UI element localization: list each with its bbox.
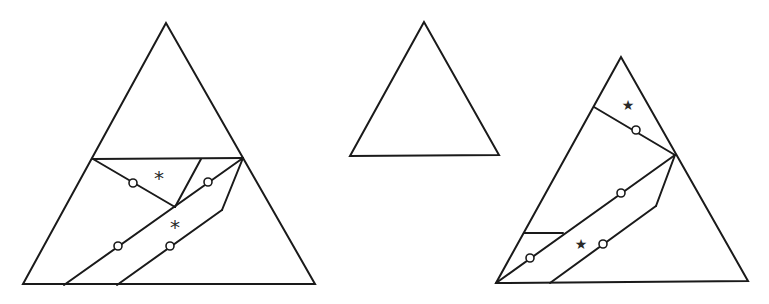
triangle-outline <box>496 57 748 283</box>
circle-node-icon <box>599 240 607 248</box>
circle-node-icon <box>632 126 640 134</box>
right-triangle-figure: ★★ <box>496 57 748 283</box>
star-icon: ★ <box>575 236 588 252</box>
left-triangle-figure: ** <box>23 23 315 285</box>
edge-segment <box>175 159 201 207</box>
triangle-outline <box>350 22 499 156</box>
edge-segment <box>496 155 675 283</box>
circle-node-icon <box>166 242 174 250</box>
circle-node-icon <box>617 189 625 197</box>
asterisk-icon: * <box>170 215 180 239</box>
star-icon: ★ <box>622 97 635 113</box>
edge-segment <box>93 158 243 159</box>
middle-triangle-figure <box>350 22 499 156</box>
circle-node-icon <box>114 242 122 250</box>
circle-node-icon <box>129 179 137 187</box>
asterisk-icon: * <box>154 166 164 190</box>
circle-node-icon <box>526 254 534 262</box>
circle-node-icon <box>204 178 212 186</box>
diagram-canvas: ** ★★ <box>0 0 769 304</box>
